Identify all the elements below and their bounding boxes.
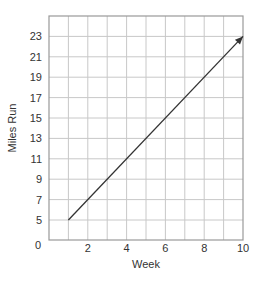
x-tick-label: 10 <box>237 242 249 254</box>
series-line <box>68 36 243 220</box>
y-tick-label: 17 <box>30 92 42 104</box>
x-tick-label: 6 <box>162 242 168 254</box>
x-tick-label: 8 <box>201 242 207 254</box>
x-tick-label: 4 <box>124 242 130 254</box>
line-chart: 57911131517192123 246810 0 Week Miles Ru… <box>0 0 259 283</box>
grid <box>49 16 243 240</box>
origin-label: 0 <box>35 239 41 251</box>
y-tick-label: 23 <box>30 30 42 42</box>
x-axis-label: Week <box>132 258 160 270</box>
x-axis-ticks: 246810 <box>85 242 249 254</box>
x-tick-label: 2 <box>85 242 91 254</box>
y-axis-ticks: 57911131517192123 <box>30 30 42 226</box>
y-tick-label: 9 <box>36 173 42 185</box>
y-tick-label: 21 <box>30 51 42 63</box>
y-tick-label: 19 <box>30 71 42 83</box>
y-axis-label: Miles Run <box>6 104 18 153</box>
y-tick-label: 15 <box>30 112 42 124</box>
y-tick-label: 13 <box>30 132 42 144</box>
data-series <box>68 36 243 220</box>
y-tick-label: 7 <box>36 194 42 206</box>
y-tick-label: 5 <box>36 214 42 226</box>
y-tick-label: 11 <box>31 153 42 165</box>
